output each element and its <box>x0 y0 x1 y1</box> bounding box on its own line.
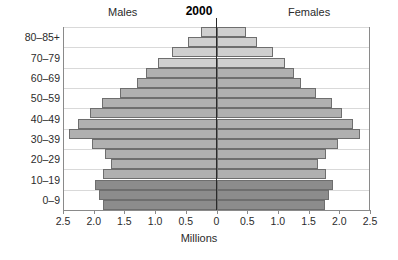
x-axis-label-5: 0 <box>214 215 220 227</box>
bar-male-30-34 <box>92 139 216 149</box>
x-axis-tick <box>278 210 279 214</box>
bar-male-45-49 <box>90 108 216 118</box>
bar-female-65-69 <box>217 68 294 78</box>
x-axis-tick <box>186 210 187 214</box>
y-axis-label-10-19: 10–19 <box>2 174 60 186</box>
bar-male-15-19 <box>103 169 217 179</box>
x-axis-tick <box>124 210 125 214</box>
bar-female-85+ <box>217 27 246 37</box>
x-axis-label-1: 2.0 <box>86 215 101 227</box>
y-axis-label-70-79: 70–79 <box>2 52 60 64</box>
bar-female-35-39 <box>217 129 361 139</box>
x-axis-labels: 2.52.01.51.00.500.51.01.52.02.5 <box>0 215 398 229</box>
x-axis-tick <box>217 210 218 214</box>
bar-male-65-69 <box>146 68 217 78</box>
y-axis-label-80-85+: 80–85+ <box>2 31 60 43</box>
bar-female-45-49 <box>217 108 343 118</box>
x-axis-tick <box>63 210 64 214</box>
x-axis-label-2: 1.5 <box>117 215 132 227</box>
x-axis-tick <box>309 210 310 214</box>
bar-female-70-74 <box>217 58 285 68</box>
y-axis-label-20-29: 20–29 <box>2 153 60 165</box>
bar-male-40-44 <box>78 119 217 129</box>
bar-female-30-34 <box>217 139 339 149</box>
bar-male-0-4 <box>103 200 217 210</box>
x-axis-label-10: 2.5 <box>363 215 378 227</box>
y-axis-label-40-49: 40–49 <box>2 113 60 125</box>
bar-female-5-9 <box>217 190 330 200</box>
x-axis-tick <box>94 210 95 214</box>
bar-male-5-9 <box>99 190 217 200</box>
x-axis-tick <box>155 210 156 214</box>
bar-male-55-59 <box>120 88 217 98</box>
population-pyramid-chart: Males 2000 Females 0–910–1920–2930–3940–… <box>0 0 398 260</box>
bar-female-0-4 <box>217 200 325 210</box>
bar-male-20-24 <box>111 159 217 169</box>
x-axis-line <box>63 210 370 211</box>
x-axis-tick <box>247 210 248 214</box>
x-axis-label-9: 2.0 <box>332 215 347 227</box>
chart-header: Males 2000 Females <box>0 0 398 24</box>
plot-area <box>63 27 370 210</box>
bar-female-55-59 <box>217 88 316 98</box>
bar-female-75-79 <box>217 47 273 57</box>
y-axis-labels: 0–910–1920–2930–3940–4950–5960–6970–7980… <box>0 27 60 210</box>
y-axis-label-0-9: 0–9 <box>2 194 60 206</box>
x-axis-label-3: 1.0 <box>148 215 163 227</box>
x-axis-title: Millions <box>0 232 398 244</box>
x-axis-tick <box>370 210 371 214</box>
bar-female-50-54 <box>217 98 332 108</box>
bar-male-70-74 <box>158 58 216 68</box>
bar-female-15-19 <box>217 169 326 179</box>
bar-male-75-79 <box>172 47 216 57</box>
x-axis-label-6: 0.5 <box>240 215 255 227</box>
y-axis-label-50-59: 50–59 <box>2 92 60 104</box>
x-axis-label-8: 1.5 <box>301 215 316 227</box>
bar-male-35-39 <box>69 129 216 139</box>
bar-male-10-14 <box>95 180 217 190</box>
year-title: 2000 <box>0 4 398 18</box>
bar-male-80-84 <box>188 37 216 47</box>
bar-male-25-29 <box>105 149 217 159</box>
y-axis-label-30-39: 30–39 <box>2 133 60 145</box>
bar-male-85+ <box>201 27 217 37</box>
x-axis-label-4: 0.5 <box>178 215 193 227</box>
bar-male-50-54 <box>102 98 216 108</box>
females-label: Females <box>288 6 330 18</box>
bar-male-60-64 <box>137 78 217 88</box>
x-axis-tick <box>339 210 340 214</box>
y-axis-label-60-69: 60–69 <box>2 72 60 84</box>
bar-female-20-24 <box>217 159 319 169</box>
x-axis-label-0: 2.5 <box>56 215 71 227</box>
bar-female-60-64 <box>217 78 301 88</box>
bar-female-10-14 <box>217 180 333 190</box>
bar-female-80-84 <box>217 37 258 47</box>
bar-female-25-29 <box>217 149 326 159</box>
bar-female-40-44 <box>217 119 353 129</box>
x-axis-label-7: 1.0 <box>271 215 286 227</box>
center-axis-line <box>216 18 217 210</box>
